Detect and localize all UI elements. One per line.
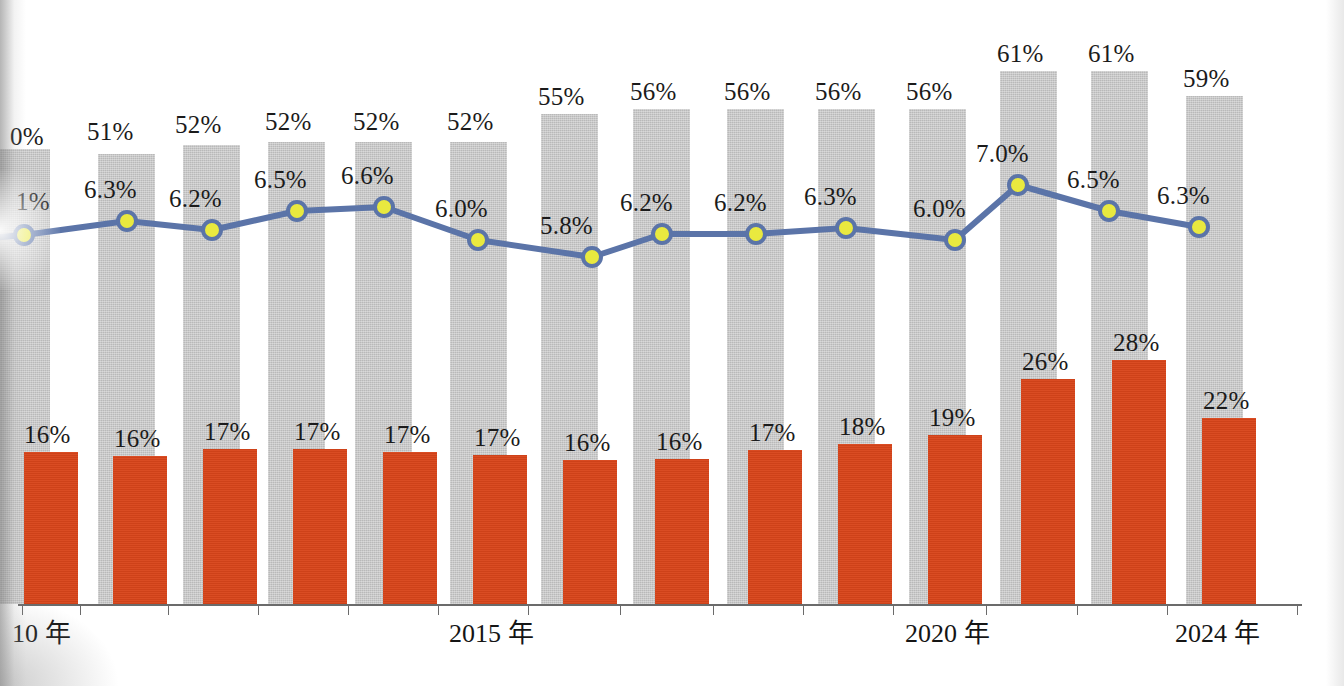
line-label-2011: 6.3%	[84, 176, 137, 204]
chart-plot-area: 0% 51% 52% 52% 52% 52% 55% 56% 56% 56% 5…	[0, 0, 1344, 686]
line-series-layer	[0, 0, 1344, 686]
line-label-2010: 1%	[16, 188, 50, 216]
line-label-2015: 6.0%	[435, 195, 488, 223]
line-label-2018: 6.2%	[714, 189, 767, 217]
line-label-2016: 5.8%	[540, 212, 593, 240]
line-label-2012: 6.2%	[169, 185, 222, 213]
line-label-2019: 6.3%	[804, 183, 857, 211]
line-label-2023: 6.3%	[1157, 182, 1210, 210]
chart-page: 0% 51% 52% 52% 52% 52% 55% 56% 56% 56% 5…	[0, 0, 1344, 686]
line-label-2014: 6.6%	[341, 162, 394, 190]
line-label-2020: 6.0%	[913, 195, 966, 223]
line-label-2021: 7.0%	[976, 140, 1029, 168]
line-label-2017: 6.2%	[620, 189, 673, 217]
line-label-2013: 6.5%	[254, 166, 307, 194]
line-label-2022: 6.5%	[1067, 166, 1120, 194]
